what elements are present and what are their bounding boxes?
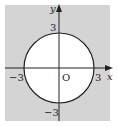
- y-axis-label: y: [49, 3, 56, 14]
- tick-x-neg: −3: [9, 72, 24, 83]
- coordinate-diagram: y x O 3 −3 −3 3: [0, 0, 118, 126]
- origin-label: O: [62, 72, 70, 83]
- tick-y-neg: −3: [44, 107, 59, 118]
- tick-x-pos: 3: [95, 72, 101, 83]
- x-axis-label: x: [107, 71, 113, 82]
- tick-y-pos: 3: [50, 22, 56, 33]
